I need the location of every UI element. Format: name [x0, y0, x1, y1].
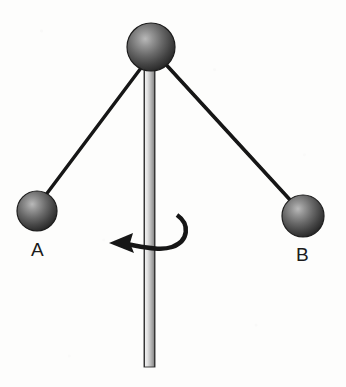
- ball-b: [282, 195, 324, 237]
- diagram-canvas: [0, 0, 346, 387]
- string-to-ball-b: [160, 58, 292, 202]
- pivot-ball: [127, 23, 175, 71]
- string-group: [45, 58, 292, 202]
- ball-a-label: A: [31, 240, 44, 259]
- ball-a: [17, 191, 57, 231]
- string-to-ball-a: [45, 60, 147, 196]
- sphere-group: [17, 23, 324, 237]
- ball-b-label: B: [296, 245, 309, 264]
- vertical-rod: [144, 55, 155, 367]
- physics-diagram-figure: A B: [0, 0, 346, 387]
